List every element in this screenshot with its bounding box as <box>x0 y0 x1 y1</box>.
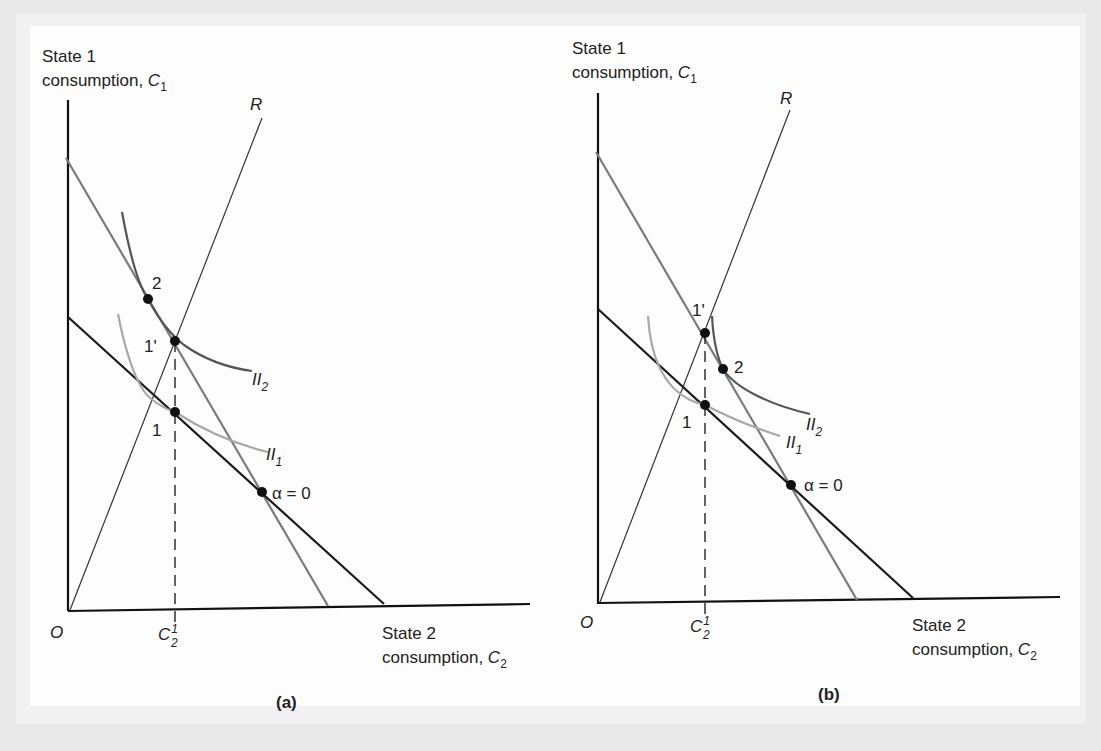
point-alpha0 <box>786 480 796 490</box>
point-1prime-label: 1' <box>144 337 157 356</box>
origin-label: O <box>50 623 63 642</box>
x-axis <box>68 604 530 611</box>
ray-label: R <box>250 95 262 114</box>
budget-line-black <box>68 317 384 604</box>
x-axis-label-line1: State 2 <box>912 616 966 635</box>
budget-line-black <box>598 309 913 598</box>
ray-r <box>600 110 790 602</box>
y-axis-label-line2: consumption, C1 <box>42 71 167 94</box>
budget-line-grey <box>596 152 857 600</box>
diagram-canvas: State 1 consumption, C1 R 2 1' 1 α = 0 I… <box>0 0 1101 751</box>
y-axis-label-line2: consumption, C1 <box>572 63 697 86</box>
point-2-label: 2 <box>734 358 743 377</box>
panel-a: State 1 consumption, C1 R 2 1' 1 α = 0 I… <box>42 47 530 712</box>
c2-1-tick-label: C12 <box>690 614 710 642</box>
x-axis-label-line2: consumption, C2 <box>912 640 1037 663</box>
indifference-curve-ii2 <box>122 212 252 371</box>
point-2 <box>143 294 153 304</box>
ii1-label: II1 <box>786 433 802 457</box>
origin-label: O <box>580 613 593 632</box>
x-axis <box>598 597 1060 603</box>
x-axis-label-line2: consumption, C2 <box>382 648 507 671</box>
point-1prime-label: 1' <box>692 301 705 320</box>
alpha-zero-label: α = 0 <box>804 476 843 495</box>
point-1prime <box>700 328 710 338</box>
point-1-label: 1 <box>682 413 691 432</box>
x-axis-label-line1: State 2 <box>382 624 436 643</box>
ii2-label: II2 <box>806 415 822 439</box>
point-2-label: 2 <box>152 274 161 293</box>
point-1prime <box>170 336 180 346</box>
y-axis-label-line1: State 1 <box>42 47 96 66</box>
point-1 <box>700 400 710 410</box>
c2-1-tick-label: C12 <box>158 622 178 650</box>
indifference-curve-ii2 <box>712 316 810 414</box>
panel-b: State 1 consumption, C1 R 1' 2 1 α = 0 I… <box>572 39 1060 704</box>
point-alpha0 <box>257 487 267 497</box>
ray-r <box>70 118 262 610</box>
ii2-label: II2 <box>252 370 268 394</box>
y-axis-label-line1: State 1 <box>572 39 626 58</box>
point-2 <box>718 364 728 374</box>
point-1 <box>170 407 180 417</box>
panel-a-caption: (a) <box>276 693 297 712</box>
ray-label: R <box>780 89 792 108</box>
point-1-label: 1 <box>152 421 161 440</box>
panel-b-caption: (b) <box>818 685 840 704</box>
budget-line-grey <box>66 158 328 606</box>
ii1-label: II1 <box>266 445 282 469</box>
alpha-zero-label: α = 0 <box>272 484 311 503</box>
